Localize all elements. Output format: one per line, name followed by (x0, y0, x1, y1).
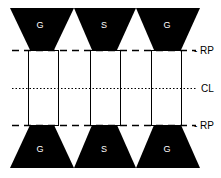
bottom-shapes: G S G (10, 125, 200, 168)
cl-label: CL (201, 83, 214, 94)
top-shape-label-1: G (36, 20, 43, 30)
top-rp-label: - RP (194, 45, 214, 56)
rect-2 (91, 51, 121, 126)
bottom-shape-label-3: G (163, 144, 170, 154)
top-shapes: G S G (10, 8, 200, 50)
top-shape-label-2: S (101, 20, 107, 30)
diagram-canvas: G S G G S G - RP CL - RP (0, 0, 221, 178)
bottom-shape-label-2: S (101, 144, 107, 154)
bottom-shape-label-1: G (36, 144, 43, 154)
bottom-rp-label: - RP (194, 120, 214, 131)
top-shape-label-3: G (163, 20, 170, 30)
